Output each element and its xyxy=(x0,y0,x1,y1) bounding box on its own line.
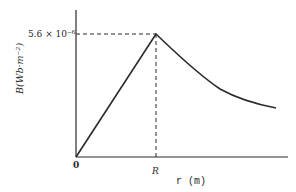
y-peak-label: 5.6 × 10⁻⁶ xyxy=(28,29,76,39)
x-R-label: R xyxy=(151,166,159,176)
x-axis-label: r (m) xyxy=(176,176,206,187)
magnetic-field-chart: 5.6 × 10⁻⁶ B(Wb·m⁻²) 0 R r (m) xyxy=(0,0,296,192)
y-axis-label: B(Wb·m⁻²) xyxy=(14,43,25,95)
x-origin-label: 0 xyxy=(73,160,79,170)
field-curve xyxy=(76,34,276,157)
